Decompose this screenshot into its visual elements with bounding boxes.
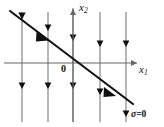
origin-label: 0 — [61, 64, 66, 74]
vertical-trajectory-group — [18, 8, 129, 122]
trajectory-arrow-icon — [45, 83, 52, 90]
sigma-zero-line — [10, 11, 133, 104]
phase-portrait-figure: x1 x2 0 σ=0 — [0, 0, 164, 127]
x1-axis-label: x1 — [139, 64, 148, 75]
trajectory-arrow-icon — [123, 111, 130, 118]
trajectory-arrow-icon — [97, 89, 104, 96]
sigma-equals-zero-text: =0 — [136, 109, 146, 119]
switching-line-group — [10, 11, 133, 104]
axes-group — [4, 9, 137, 122]
sigma-zero-label: σ=0 — [131, 110, 146, 120]
trajectory-arrow-icon — [45, 25, 52, 32]
x2-axis-label: x2 — [79, 2, 88, 13]
trajectory-arrow-icon — [123, 41, 130, 48]
switching-line-arrow-icon — [36, 32, 49, 42]
trajectory-arrow-icon — [97, 41, 104, 48]
trajectory-arrow-icon — [19, 83, 26, 90]
